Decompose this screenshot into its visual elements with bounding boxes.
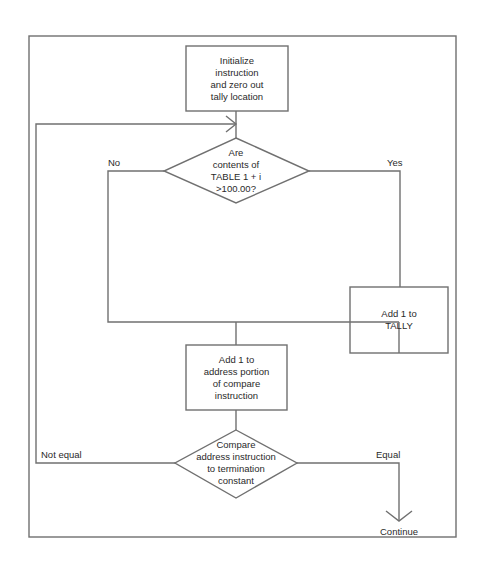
decision2-line-2: address instruction bbox=[196, 451, 276, 463]
init-line-3: and zero out bbox=[211, 79, 264, 91]
add-address-line-1: Add 1 to bbox=[219, 354, 254, 366]
decision2-line-4: constant bbox=[218, 475, 254, 487]
add-address-text: Add 1 to address portion of compare inst… bbox=[186, 345, 287, 410]
label-yes: Yes bbox=[387, 157, 403, 169]
decision1-line-1: Are bbox=[229, 147, 244, 159]
label-continue: Continue bbox=[380, 526, 418, 538]
add-tally-line-1: Add 1 to bbox=[381, 308, 416, 320]
add-tally-line-2: TALLY bbox=[385, 320, 413, 332]
decision1-line-4: >100.00? bbox=[216, 183, 256, 195]
add-address-line-3: of compare bbox=[213, 378, 261, 390]
decision2-line-1: Compare bbox=[216, 439, 255, 451]
label-no: No bbox=[108, 157, 120, 169]
init-line-4: tally location bbox=[211, 91, 263, 103]
init-line-2: instruction bbox=[215, 67, 258, 79]
connector-equal-branch bbox=[297, 463, 399, 521]
label-equal: Equal bbox=[376, 449, 400, 461]
decision1-text: Are contents of TABLE 1 + i >100.00? bbox=[186, 146, 286, 196]
decision1-line-3: TABLE 1 + i bbox=[211, 171, 261, 183]
add-address-line-2: address portion bbox=[204, 366, 269, 378]
add-tally-text: Add 1 to TALLY bbox=[350, 287, 448, 353]
init-line-1: Initialize bbox=[220, 55, 254, 67]
decision2-line-3: to termination bbox=[207, 463, 265, 475]
connector-yes-branch bbox=[309, 171, 400, 287]
decision2-text: Compare address instruction to terminati… bbox=[186, 438, 286, 488]
label-not-equal: Not equal bbox=[41, 449, 82, 461]
add-address-line-4: instruction bbox=[215, 390, 258, 402]
decision1-line-2: contents of bbox=[213, 159, 259, 171]
init-box-text: Initialize instruction and zero out tall… bbox=[186, 46, 288, 111]
